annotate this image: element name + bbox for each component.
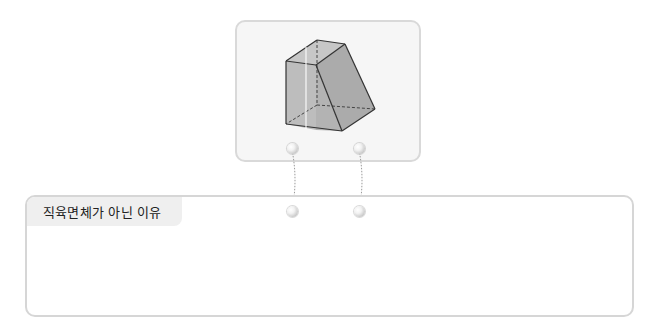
answer-box: 직육면체가 아닌 이유: [25, 195, 634, 317]
connector-knob-bottom-right[interactable]: [354, 206, 365, 217]
answer-input[interactable]: [37, 233, 626, 313]
figure-card: [235, 20, 421, 162]
connector-knob-top-left[interactable]: [287, 143, 298, 154]
answer-label: 직육면체가 아닌 이유: [27, 197, 182, 226]
solid-figure-illustration: [237, 22, 423, 164]
answer-label-text: 직육면체가 아닌 이유: [43, 202, 161, 221]
connector-knob-bottom-left[interactable]: [287, 206, 298, 217]
connector-knob-top-right[interactable]: [354, 143, 365, 154]
